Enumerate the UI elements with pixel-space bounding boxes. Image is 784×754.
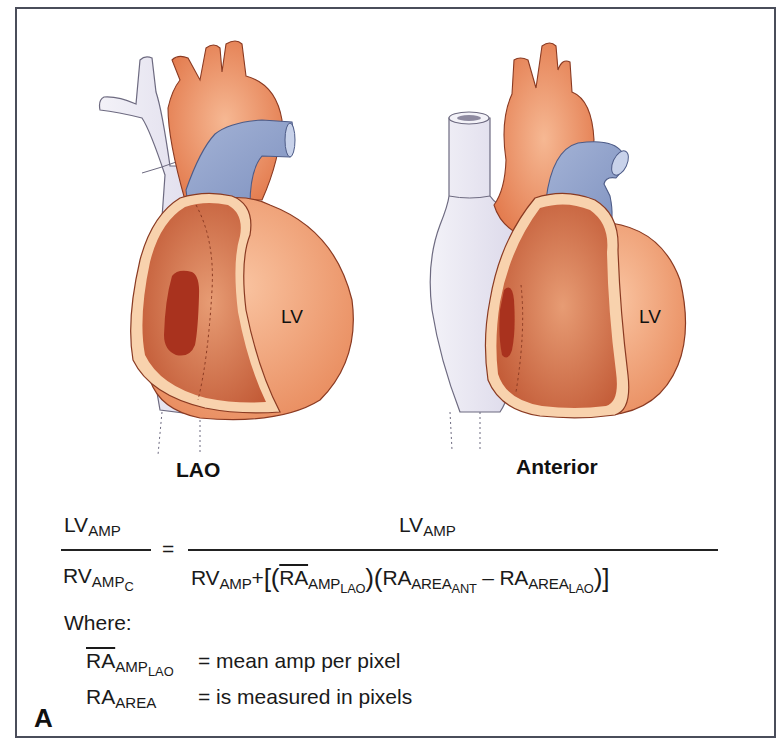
- rhs-den-term3-sub: AREA: [411, 575, 451, 592]
- rhs-den-term2-subsub: LAO: [340, 581, 365, 596]
- lhs-numerator: LVAMP: [64, 514, 121, 538]
- rhs-den-term1-sub: AMP: [219, 575, 251, 592]
- definition-row: RAAREA: [86, 686, 156, 710]
- minus-sign: –: [477, 566, 500, 589]
- rhs-den-term2-sub: AMP: [308, 575, 340, 592]
- definition-2-sub: AREA: [115, 694, 156, 711]
- definition-1-subsub: LAO: [148, 664, 174, 679]
- rhs-den-term1-base: RV: [191, 566, 219, 589]
- definition-1-sub: AMP: [115, 658, 148, 675]
- lhs-num-base: LV: [64, 513, 88, 536]
- lhs-den-subsub: C: [125, 579, 134, 594]
- definition-2-base: RA: [86, 685, 115, 708]
- lao-view-label: LAO: [176, 458, 220, 482]
- rhs-den-term3-subsub: ANT: [452, 581, 477, 596]
- anterior-view-label: Anterior: [516, 455, 598, 479]
- rhs-fraction-line: [188, 549, 718, 551]
- lhs-den-sub: AMP: [92, 573, 125, 590]
- close-brackets: )]: [594, 563, 610, 593]
- lhs-den-base: RV: [63, 564, 92, 587]
- lhs-num-sub: AMP: [88, 522, 121, 539]
- where-label: Where:: [64, 612, 132, 633]
- rhs-den-term4-sub: AREA: [528, 575, 568, 592]
- definition-2-text: = is measured in pixels: [198, 686, 412, 707]
- panel-letter: A: [34, 703, 53, 734]
- rhs-den-term3-base: RA: [382, 566, 411, 589]
- definition-1-text: = mean amp per pixel: [198, 650, 401, 671]
- rhs-den-term2-base: RA: [279, 566, 308, 589]
- heart-illustrations: [0, 0, 784, 754]
- mid-parens: )(: [365, 563, 382, 593]
- rhs-numerator: LVAMP: [399, 514, 456, 538]
- equals-sign: =: [162, 538, 174, 559]
- rhs-num-base: LV: [399, 513, 423, 536]
- anterior-heart: [430, 43, 685, 450]
- rhs-den-term4-base: RA: [499, 566, 528, 589]
- lao-lv-label: LV: [281, 306, 303, 328]
- lhs-denominator: RVAMPC: [63, 565, 134, 594]
- rhs-den-term4-subsub: LAO: [569, 581, 594, 596]
- rhs-num-sub: AMP: [423, 522, 456, 539]
- lao-heart: [100, 41, 354, 455]
- rhs-denominator: RVAMP+[(RAAMPLAO)(RAAREAANT – RAAREALAO)…: [191, 565, 609, 596]
- definition-row: RAAMPLAO: [86, 650, 174, 679]
- plus-sign: +: [252, 566, 264, 589]
- definition-1-base: RA: [86, 649, 115, 672]
- anterior-lv-label: LV: [639, 306, 661, 328]
- open-brackets: [(: [264, 563, 280, 593]
- lhs-fraction-line: [61, 549, 151, 551]
